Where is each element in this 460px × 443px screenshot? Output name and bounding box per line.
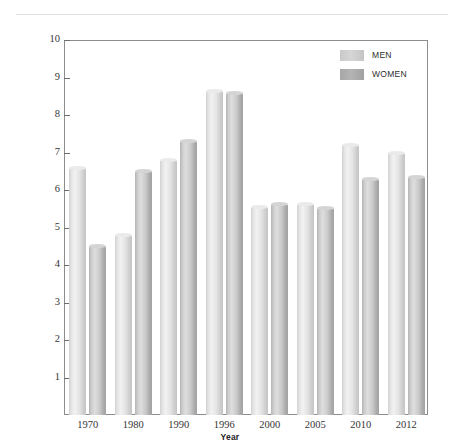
- bar-men-2005: [297, 204, 314, 415]
- x-tick-label-2000: 2000: [244, 419, 296, 430]
- legend-swatch-men: [340, 50, 364, 61]
- y-tick-mark: [64, 40, 70, 41]
- bar-cap: [160, 158, 177, 162]
- y-tick-label: 5: [40, 221, 60, 232]
- y-tick-label: 10: [40, 33, 60, 44]
- bar-men-1980: [115, 235, 132, 415]
- x-tick-label-1980: 1980: [107, 419, 159, 430]
- x-tick-label-1970: 1970: [62, 419, 114, 430]
- bar-cap: [408, 175, 425, 179]
- bar-cap: [297, 202, 314, 206]
- y-tick-label: 4: [40, 258, 60, 269]
- bar-women-2005: [317, 208, 334, 415]
- bar-cap: [89, 244, 106, 248]
- bar-women-2000: [271, 204, 288, 415]
- y-tick-label: 8: [40, 108, 60, 119]
- x-tick-label-2010: 2010: [335, 419, 387, 430]
- bar-women-2010: [362, 179, 379, 415]
- x-tick-label-2012: 2012: [380, 419, 432, 430]
- bar-cap: [206, 89, 223, 93]
- bar-men-1990: [160, 160, 177, 415]
- y-tick-label: 3: [40, 296, 60, 307]
- y-tick-mark: [64, 153, 70, 154]
- bar-men-2012: [388, 153, 405, 416]
- y-tick-mark: [64, 115, 70, 116]
- legend-item-women: WOMEN: [340, 66, 426, 82]
- bar-cap: [362, 177, 379, 181]
- legend-label-women: WOMEN: [372, 69, 407, 79]
- bar-women-1996: [226, 93, 243, 416]
- bar-women-1970: [89, 246, 106, 415]
- bar-women-1980: [135, 171, 152, 415]
- y-tick-label: 9: [40, 71, 60, 82]
- legend-label-men: MEN: [372, 50, 392, 60]
- bar-men-1970: [69, 168, 86, 416]
- bar-women-1990: [180, 141, 197, 415]
- top-divider: [16, 14, 448, 15]
- bar-cap: [135, 169, 152, 173]
- bar-men-2000: [251, 207, 268, 415]
- bar-women-2012: [408, 177, 425, 415]
- x-tick-label-1990: 1990: [153, 419, 205, 430]
- bar-cap: [115, 233, 132, 237]
- bar-men-2010: [342, 145, 359, 415]
- bar-cap: [180, 139, 197, 143]
- y-tick-label: 7: [40, 146, 60, 157]
- bar-cap: [69, 166, 86, 170]
- y-tick-label: 1: [40, 371, 60, 382]
- legend-swatch-women: [340, 69, 364, 80]
- bar-cap: [251, 205, 268, 209]
- bar-cap: [317, 206, 334, 210]
- bar-cap: [226, 91, 243, 95]
- y-tick-label: 2: [40, 333, 60, 344]
- bar-cap: [271, 202, 288, 206]
- x-tick-label-2005: 2005: [289, 419, 341, 430]
- legend-item-men: MEN: [340, 47, 426, 63]
- x-axis-title: Year: [0, 432, 460, 442]
- y-tick-label: 6: [40, 183, 60, 194]
- bar-men-1996: [206, 91, 223, 415]
- bar-cap: [388, 151, 405, 155]
- y-tick-mark: [64, 78, 70, 79]
- x-tick-label-1996: 1996: [198, 419, 250, 430]
- chart-legend: MEN WOMEN: [340, 47, 426, 85]
- bar-cap: [342, 143, 359, 147]
- chart-figure: Unemployment Rate (Percent) 10987654321 …: [0, 0, 460, 443]
